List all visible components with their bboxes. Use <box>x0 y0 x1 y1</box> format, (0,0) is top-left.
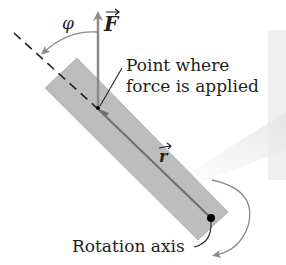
rotation-axis-label: Rotation axis <box>72 236 185 256</box>
rotation-axis-dot <box>207 214 215 222</box>
position-vector-line <box>98 109 211 218</box>
application-point <box>96 106 100 110</box>
force-label: F <box>103 12 120 36</box>
torque-diagram: F φ Point where force is applied r Rotat… <box>0 0 286 265</box>
point-label-line1: Point where <box>126 55 229 75</box>
angle-label: φ <box>62 13 74 33</box>
background-panel <box>268 30 286 180</box>
point-label-line2: force is applied <box>126 76 259 96</box>
angle-arc <box>44 32 97 52</box>
